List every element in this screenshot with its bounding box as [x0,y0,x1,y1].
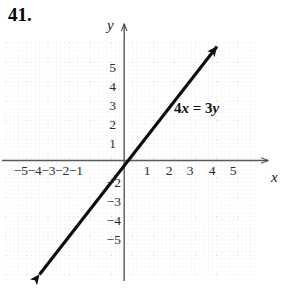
x-axis-tick-4: 4 [209,164,216,178]
equation-coefficient-1: 4 [174,100,182,116]
y-axis-tick-3: 3 [94,99,116,113]
y-axis-tick-minus-5: −5 [99,233,121,247]
x-axis-tick-2: 2 [166,164,173,178]
axes-and-plot [0,0,288,291]
y-axis-tick-minus-2: −2 [99,176,121,190]
equation-variable-y: y [213,100,220,116]
y-axis-tick-5: 5 [94,61,116,75]
x-axis-tick-3: 3 [187,164,194,178]
x-axis-label: x [271,170,278,185]
equation-annotation: 4x = 3y [174,100,219,116]
y-axis-tick-4: 4 [94,80,116,94]
y-axis-label: y [107,18,114,33]
y-axis-tick-2: 2 [94,118,116,132]
y-axis-tick-1: 1 [94,137,116,151]
equation-variable-x: x [182,100,190,116]
x-axis-tick-labels-negative: −5−4−3−2−1 [14,164,83,178]
graph-figure: 41. −5−4−3−2−1 1 2 3 4 5 5 4 3 2 1 −2 −3… [0,0,288,291]
equation-coefficient-2: 3 [205,100,213,116]
y-axis-tick-minus-4: −4 [99,214,121,228]
x-axis-tick-5: 5 [230,164,237,178]
x-axis-tick-1: 1 [144,164,151,178]
y-axis-tick-minus-3: −3 [99,195,121,209]
equation-relation: = [193,100,202,116]
